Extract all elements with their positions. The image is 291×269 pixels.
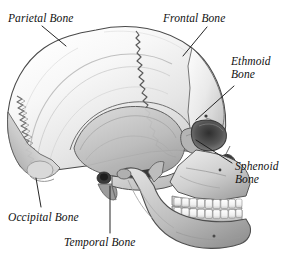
skull-anatomy-figure: Parietal Bone Frontal Bone Ethmoid Bone … [0, 0, 291, 269]
label-occipital-bone-line1: Occipital Bone [8, 211, 79, 224]
label-ethmoid-bone-line1: Ethmoid [231, 55, 271, 68]
label-frontal-bone-line1: Frontal Bone [163, 12, 225, 25]
label-frontal-bone: Frontal Bone [163, 12, 225, 25]
label-ethmoid-bone-line2: Bone [231, 68, 271, 81]
label-parietal-bone-line1: Parietal Bone [8, 12, 74, 25]
label-sphenoid-bone-line1: Sphenoid [235, 160, 279, 173]
label-occipital-bone: Occipital Bone [8, 211, 79, 224]
skull-illustration [0, 0, 291, 269]
orbit [191, 120, 226, 151]
label-ethmoid-bone: Ethmoid Bone [231, 55, 271, 81]
leader-line-occipital [36, 178, 41, 207]
label-parietal-bone: Parietal Bone [8, 12, 74, 25]
label-sphenoid-bone: Sphenoid Bone [235, 160, 279, 186]
label-temporal-bone-line1: Temporal Bone [64, 236, 135, 249]
label-sphenoid-bone-line2: Bone [235, 173, 279, 186]
label-temporal-bone: Temporal Bone [64, 236, 135, 249]
